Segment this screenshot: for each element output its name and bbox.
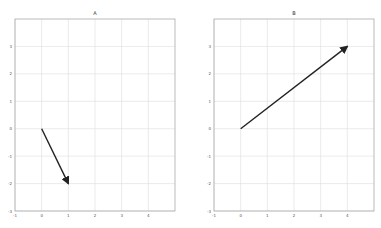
- x-tick-label: 3: [319, 213, 322, 218]
- y-tick-label: -2: [8, 181, 12, 186]
- chart-b: -1012343210-1-2-3: [207, 19, 374, 218]
- x-tick-label: 2: [293, 213, 296, 218]
- y-tick-label: -3: [8, 209, 12, 214]
- y-tick-label: -1: [8, 154, 12, 159]
- y-tick-label: 0: [9, 126, 12, 131]
- x-tick-label: 0: [40, 213, 43, 218]
- x-tick-label: 1: [67, 213, 70, 218]
- x-tick-label: 4: [147, 213, 150, 218]
- y-tick-label: 0: [208, 126, 211, 131]
- y-tick-label: -3: [207, 209, 211, 214]
- y-tick-label: 2: [9, 71, 12, 76]
- x-tick-label: 1: [266, 213, 269, 218]
- y-tick-label: -2: [207, 181, 211, 186]
- x-tick-label: -1: [212, 213, 216, 218]
- x-tick-label: 4: [346, 213, 349, 218]
- x-tick-label: 2: [94, 213, 97, 218]
- x-tick-label: -1: [13, 213, 17, 218]
- chart-a: -1012343210-1-2-3: [8, 19, 175, 218]
- x-tick-label: 3: [120, 213, 123, 218]
- y-tick-label: 1: [208, 99, 211, 104]
- y-tick-label: 3: [208, 44, 211, 49]
- x-tick-label: 0: [239, 213, 242, 218]
- plots-canvas: -1012343210-1-2-3-1012343210-1-2-3: [0, 0, 381, 228]
- y-tick-label: 3: [9, 44, 12, 49]
- y-tick-label: 2: [208, 71, 211, 76]
- y-tick-label: 1: [9, 99, 12, 104]
- y-tick-label: -1: [207, 154, 211, 159]
